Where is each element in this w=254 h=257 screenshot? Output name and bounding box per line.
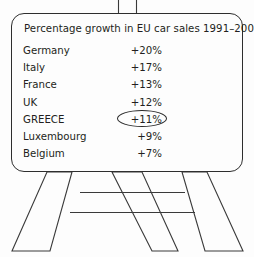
table-row: Italy +17% xyxy=(12,61,244,78)
table-row-highlighted: GREECE +11% xyxy=(12,113,244,130)
row-label-belgium: Belgium xyxy=(23,148,65,159)
row-label-france: France xyxy=(23,79,57,90)
table-row: Belgium +7% xyxy=(12,147,244,164)
row-value-luxembourg: +9% xyxy=(122,131,162,142)
table-row: UK +12% xyxy=(12,96,244,113)
row-label-greece: GREECE xyxy=(23,114,64,125)
data-row-list: Germany +20% Italy +17% France +13% UK +… xyxy=(12,44,244,164)
board-title: Percentage growth in EU car sales 1991–2… xyxy=(24,23,254,34)
table-row: France +13% xyxy=(12,78,244,95)
row-label-italy: Italy xyxy=(23,62,45,73)
easel-diagram: Percentage growth in EU car sales 1991–2… xyxy=(0,0,254,257)
table-row: Luxembourg +9% xyxy=(12,130,244,147)
row-label-germany: Germany xyxy=(23,45,70,56)
table-row: Germany +20% xyxy=(12,44,244,61)
presentation-board: Percentage growth in EU car sales 1991–2… xyxy=(11,13,243,172)
row-value-france: +13% xyxy=(122,79,162,90)
row-value-italy: +17% xyxy=(122,62,162,73)
row-value-belgium: +7% xyxy=(122,148,162,159)
row-label-uk: UK xyxy=(23,97,37,108)
row-value-uk: +12% xyxy=(122,97,162,108)
row-value-germany: +20% xyxy=(122,45,162,56)
easel-center-leg xyxy=(112,172,178,251)
easel-left-leg xyxy=(12,172,72,251)
easel-right-leg xyxy=(182,172,243,251)
row-label-luxembourg: Luxembourg xyxy=(23,131,87,142)
row-value-greece: +11% xyxy=(122,114,162,125)
